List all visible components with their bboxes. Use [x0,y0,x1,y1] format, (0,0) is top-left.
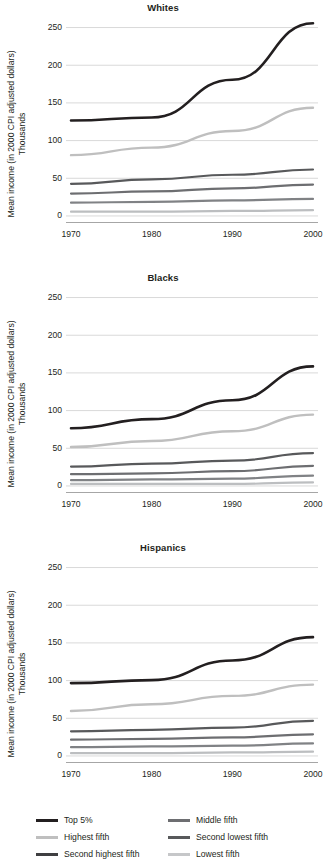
series-line-lowest-fifth [71,210,313,212]
chart-page: Whites Mean income (in 2000 CPI adjusted… [0,0,326,866]
legend-swatch-icon [36,853,58,856]
legend-label: Highest fifth [64,832,109,842]
panel-title-whites: Whites [0,2,326,13]
x-tick-labels-blacks: 1970198019902000 [66,498,318,512]
y-axis-label-whites: Mean income (in 2000 CPI adjusted dollar… [6,0,32,18]
series-line-highest-fifth [71,685,313,711]
series-line-top-5 [71,366,313,428]
legend-item-top-5: Top 5% [36,812,93,828]
y-tick-50: 50 [28,173,62,183]
plot-area-blacks [66,288,318,493]
series-line-second-lowest-fifth [71,476,313,481]
legend-swatch-icon [168,819,190,822]
x-tick-1970: 1970 [51,769,91,779]
chart-legend: Top 5%Middle fifthHighest fifthSecond lo… [0,812,326,864]
series-line-highest-fifth [71,415,313,447]
y-tick-100: 100 [28,405,62,415]
y-tick-100: 100 [28,675,62,685]
series-line-second-highest-fifth [71,721,313,732]
x-tick-1970: 1970 [51,229,91,239]
y-tick-150: 150 [28,637,62,647]
panel-title-blacks: Blacks [0,272,326,283]
legend-item-lowest-fifth: Lowest fifth [168,846,239,862]
x-tick-1980: 1980 [132,229,172,239]
series-line-second-highest-fifth [71,169,313,183]
y-axis-label-line2: Thousands [17,558,27,790]
series-line-lowest-fifth [71,752,313,754]
x-tick-2000: 2000 [293,499,326,509]
chart-panel-whites: Whites Mean income (in 2000 CPI adjusted… [0,0,326,270]
x-tick-1990: 1990 [212,769,252,779]
y-tick-150: 150 [28,97,62,107]
legend-swatch-icon [168,836,190,839]
series-line-highest-fifth [71,108,313,155]
y-tick-labels-hispanics: 050100150200250 [28,558,62,763]
x-tick-2000: 2000 [293,769,326,779]
y-tick-200: 200 [28,330,62,340]
legend-item-middle-fifth: Middle fifth [168,812,238,828]
legend-item-second-lowest-fifth: Second lowest fifth [168,829,268,845]
y-tick-200: 200 [28,600,62,610]
series-line-middle-fifth [71,734,313,739]
y-tick-250: 250 [28,292,62,302]
legend-swatch-icon [36,836,58,839]
y-tick-0: 0 [28,480,62,490]
y-tick-100: 100 [28,135,62,145]
panel-title-hispanics: Hispanics [0,542,326,553]
chart-panel-hispanics: Hispanics Mean income (in 2000 CPI adjus… [0,540,326,810]
y-tick-150: 150 [28,367,62,377]
y-tick-250: 250 [28,22,62,32]
x-tick-labels-hispanics: 1970198019902000 [66,768,318,782]
x-tick-2000: 2000 [293,229,326,239]
series-line-middle-fifth [71,185,313,194]
y-tick-250: 250 [28,562,62,572]
y-axis-label-line1: Mean income (in 2000 CPI adjusted dollar… [6,558,16,790]
x-tick-labels-whites: 1970198019902000 [66,228,318,242]
plot-svg-whites [66,18,318,223]
y-axis-label-hispanics: Mean income (in 2000 CPI adjusted dollar… [6,326,32,558]
x-tick-1990: 1990 [212,499,252,509]
legend-item-highest-fifth: Highest fifth [36,829,109,845]
legend-label: Second lowest fifth [196,832,268,842]
plot-svg-blacks [66,288,318,493]
plot-area-hispanics [66,558,318,763]
y-tick-labels-blacks: 050100150200250 [28,288,62,493]
legend-label: Second highest fifth [64,849,140,859]
plot-svg-hispanics [66,558,318,763]
y-tick-labels-whites: 050100150200250 [28,18,62,223]
series-line-top-5 [71,23,313,120]
y-tick-50: 50 [28,443,62,453]
series-line-second-highest-fifth [71,453,313,467]
chart-panel-blacks: Blacks Mean income (in 2000 CPI adjusted… [0,270,326,540]
plot-area-whites [66,18,318,223]
series-line-second-lowest-fifth [71,199,313,203]
x-tick-1990: 1990 [212,229,252,239]
series-line-second-lowest-fifth [71,743,313,747]
y-axis-label-blacks: Mean income (in 2000 CPI adjusted dollar… [6,56,32,288]
series-line-lowest-fifth [71,482,313,484]
y-tick-200: 200 [28,60,62,70]
legend-label: Lowest fifth [196,849,239,859]
series-line-top-5 [71,637,313,683]
legend-swatch-icon [168,853,190,856]
legend-swatch-icon [36,819,58,822]
x-tick-1980: 1980 [132,769,172,779]
y-tick-50: 50 [28,713,62,723]
legend-label: Middle fifth [196,815,238,825]
x-tick-1970: 1970 [51,499,91,509]
legend-label: Top 5% [64,815,93,825]
y-tick-0: 0 [28,210,62,220]
y-tick-0: 0 [28,750,62,760]
series-line-middle-fifth [71,466,313,474]
legend-item-second-highest-fifth: Second highest fifth [36,846,140,862]
x-tick-1980: 1980 [132,499,172,509]
